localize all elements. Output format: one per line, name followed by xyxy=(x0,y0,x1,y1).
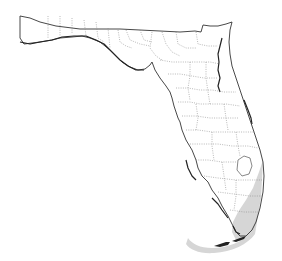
lake-okeechobee xyxy=(237,156,252,176)
map-canvas xyxy=(0,0,282,261)
gulf-coast xyxy=(20,36,144,70)
county-lines xyxy=(48,16,262,212)
florida-range-map: Florida xyxy=(0,0,282,261)
florida-outline xyxy=(20,16,264,236)
